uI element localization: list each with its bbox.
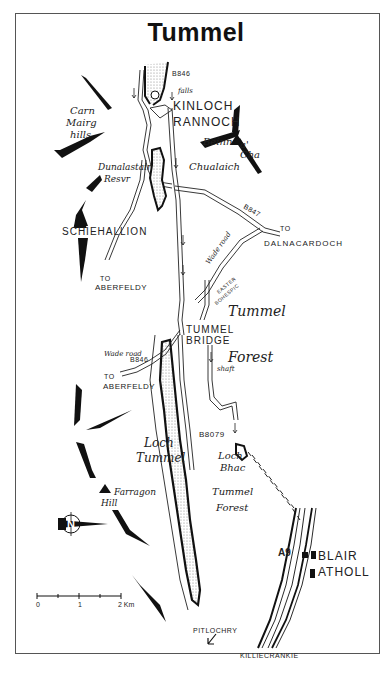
place-aberfeldy-north: ABERFELDY <box>95 284 147 292</box>
scale-bar <box>37 593 121 599</box>
blair-atholl-building <box>302 552 308 558</box>
feature-tummel-forest-top: Tummel <box>228 304 286 318</box>
place-dalnacardoch: DALNACARDOCH <box>264 240 343 248</box>
place-bridge: BRIDGE <box>186 336 230 346</box>
place-tummel: TUMMEL <box>186 325 234 335</box>
scale-tick-1: 1 <box>78 601 82 608</box>
feature-farragon: Farragon <box>114 488 156 497</box>
summit-farragon-icon <box>99 484 111 493</box>
scale-tick-2: 2 Km <box>118 601 134 608</box>
place-pitlochry: PITLOCHRY <box>193 627 237 634</box>
road-label-b846-south: B846 <box>130 356 148 363</box>
feature-loch-bhac-1: Loch <box>218 451 243 461</box>
loch-rannoch <box>143 62 168 105</box>
place-schiehallion: SCHIEHALLION <box>62 227 147 237</box>
road-b847 <box>175 186 280 236</box>
feature-cha: Cha <box>240 150 260 160</box>
blair-atholl-building-3 <box>310 569 315 578</box>
place-rannoch: RANNOCH <box>173 116 241 128</box>
direction-to-aberfeldy-north: TO <box>100 275 111 282</box>
road-label-b846-north: B846 <box>172 70 190 77</box>
direction-to-aberfeldy-south: TO <box>104 373 115 380</box>
feature-beinn: Beinn <box>203 137 232 147</box>
road-a9 <box>258 508 316 648</box>
feature-forest-top: Forest <box>228 350 273 364</box>
place-atholl: ATHOLL <box>318 566 370 578</box>
place-killiecrankie: KILLIECRANKIE <box>240 652 299 659</box>
place-blair: BLAIR <box>318 550 358 562</box>
pitlochry-arrow-icon <box>208 634 216 644</box>
place-aberfeldy-south: ABERFELDY <box>103 383 155 391</box>
direction-to-dalnacardoch: TO <box>280 225 291 232</box>
feature-hill: Hill <box>101 499 117 508</box>
road-label-b8079: B8079 <box>199 431 225 439</box>
feature-loch-tummel-1: Loch <box>144 437 174 449</box>
place-kinloch: KINLOCH <box>173 100 233 112</box>
feature-chualaich: Chualaich <box>189 162 240 172</box>
north-label: N <box>67 518 75 530</box>
dashed-path-2 <box>252 455 294 508</box>
feature-tummel-forest-bottom-2: Forest <box>216 503 248 513</box>
feature-mairg: Mairg <box>66 118 97 128</box>
north-arrow-icon: N <box>58 512 108 536</box>
dunalastair-reservoir <box>150 148 166 210</box>
dashed-path <box>248 452 300 520</box>
feature-loch-bhac-2: Bhac <box>220 463 245 473</box>
shaft-label: shaft <box>217 366 235 373</box>
blair-atholl-building-2 <box>311 551 316 559</box>
feature-resvr: Resvr <box>104 175 130 184</box>
feature-hills: hills <box>70 130 91 140</box>
feature-loch-tummel-2: Tummel <box>136 452 185 464</box>
road-label-a9: A9 <box>278 548 291 558</box>
feature-dunalastair: Dunalastair <box>98 163 151 172</box>
falls-label: falls <box>178 88 193 95</box>
scale-tick-0: 0 <box>36 601 40 608</box>
feature-carn: Carn <box>70 106 95 116</box>
feature-tummel-forest-bottom-1: Tummel <box>212 487 253 497</box>
